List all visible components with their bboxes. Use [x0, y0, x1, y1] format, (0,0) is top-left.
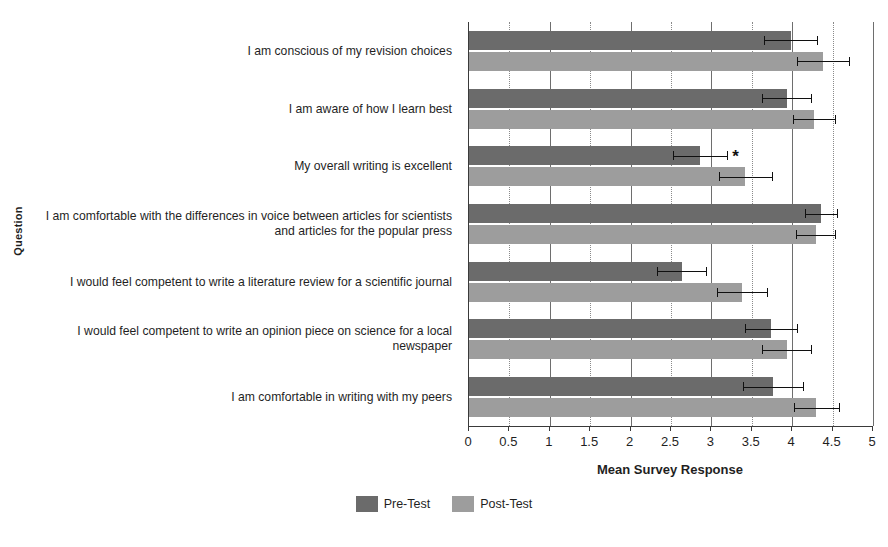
- category-label: I would feel competent to write an opini…: [36, 324, 452, 354]
- bar-post-test: [469, 167, 745, 186]
- x-tick: [872, 426, 873, 431]
- bar-pre-test: [469, 319, 771, 338]
- error-bar: [793, 119, 835, 120]
- error-bar-cap-upper: [772, 172, 773, 181]
- gridline-3: [711, 22, 712, 426]
- error-bar: [743, 387, 803, 388]
- chart-legend: Pre-TestPost-Test: [0, 496, 888, 512]
- error-bar-cap-upper: [706, 267, 707, 276]
- legend-swatch-icon: [452, 496, 474, 512]
- error-bar-cap-lower: [743, 382, 744, 391]
- gridline-2: [631, 22, 632, 426]
- gridline-2-5: [671, 22, 672, 426]
- bar-pre-test: [469, 204, 821, 223]
- gridline-4: [792, 22, 793, 426]
- bar-post-test: [469, 225, 816, 244]
- category-label: My overall writing is excellent: [36, 159, 452, 174]
- error-bar-cap-lower: [717, 288, 718, 297]
- category-label: I am comfortable with the differences in…: [36, 209, 452, 239]
- error-bar: [764, 40, 817, 41]
- x-tick: [791, 426, 792, 431]
- error-bar-cap-lower: [719, 172, 720, 181]
- y-axis-title: Question: [12, 181, 24, 281]
- error-bar-cap-upper: [835, 230, 836, 239]
- x-tick-label: 1: [529, 434, 569, 449]
- error-bar-cap-lower: [797, 57, 798, 66]
- error-bar: [794, 408, 839, 409]
- legend-label: Pre-Test: [384, 497, 431, 511]
- bar-pre-test: [469, 377, 773, 396]
- x-tick-label: 3.5: [731, 434, 771, 449]
- error-bar: [717, 292, 767, 293]
- error-bar-cap-lower: [657, 267, 658, 276]
- error-bar-cap-upper: [837, 209, 838, 218]
- x-tick: [468, 426, 469, 431]
- x-tick-label: 0: [448, 434, 488, 449]
- error-bar: [762, 98, 810, 99]
- x-tick: [589, 426, 590, 431]
- gridline-1-5: [590, 22, 591, 426]
- x-tick-label: 0.5: [488, 434, 528, 449]
- x-tick: [508, 426, 509, 431]
- error-bar-cap-lower: [794, 403, 795, 412]
- error-bar: [762, 350, 810, 351]
- error-bar-cap-upper: [797, 324, 798, 333]
- x-tick-label: 2.5: [650, 434, 690, 449]
- error-bar-cap-upper: [811, 345, 812, 354]
- gridline-5: [873, 22, 874, 426]
- error-bar-cap-lower: [793, 115, 794, 124]
- error-bar: [673, 156, 726, 157]
- legend-entry[interactable]: Post-Test: [452, 496, 532, 512]
- category-label: I am aware of how I learn best: [36, 101, 452, 116]
- gridline-1: [550, 22, 551, 426]
- x-tick: [670, 426, 671, 431]
- category-label: I am comfortable in writing with my peer…: [36, 390, 452, 405]
- x-tick-label: 5: [852, 434, 888, 449]
- bar-pre-test: [469, 146, 700, 165]
- x-tick: [630, 426, 631, 431]
- bar-post-test: [469, 52, 823, 71]
- x-tick: [549, 426, 550, 431]
- error-bar: [805, 214, 837, 215]
- gridline-4-5: [833, 22, 834, 426]
- error-bar-cap-upper: [817, 36, 818, 45]
- legend-label: Post-Test: [480, 497, 532, 511]
- error-bar: [719, 177, 772, 178]
- plot-area: *: [468, 22, 873, 426]
- legend-swatch-icon: [356, 496, 378, 512]
- x-tick-label: 4: [771, 434, 811, 449]
- error-bar-cap-lower: [745, 324, 746, 333]
- error-bar-cap-upper: [803, 382, 804, 391]
- error-bar-cap-upper: [811, 94, 812, 103]
- error-bar-cap-lower: [762, 94, 763, 103]
- error-bar-cap-upper: [839, 403, 840, 412]
- error-bar-cap-lower: [796, 230, 797, 239]
- x-tick-label: 1.5: [569, 434, 609, 449]
- error-bar-cap-upper: [849, 57, 850, 66]
- error-bar: [657, 271, 705, 272]
- category-label: I would feel competent to write a litera…: [36, 274, 452, 289]
- error-bar: [797, 61, 849, 62]
- x-tick-label: 3: [690, 434, 730, 449]
- x-tick: [710, 426, 711, 431]
- error-bar-cap-upper: [835, 115, 836, 124]
- error-bar-cap-upper: [767, 288, 768, 297]
- gridline-3-5: [752, 22, 753, 426]
- error-bar: [745, 329, 797, 330]
- bar-pre-test: [469, 31, 791, 50]
- category-label-column: I am conscious of my revision choicesI a…: [36, 22, 460, 426]
- x-tick-label: 4.5: [812, 434, 852, 449]
- legend-entry[interactable]: Pre-Test: [356, 496, 431, 512]
- bar-pre-test: [469, 89, 787, 108]
- bar-post-test: [469, 110, 814, 129]
- x-axis-title: Mean Survey Response: [468, 462, 872, 477]
- bar-pre-test: [469, 262, 682, 281]
- bar-post-test: [469, 283, 742, 302]
- bar-post-test: [469, 398, 816, 417]
- error-bar-cap-lower: [762, 345, 763, 354]
- plot-inner: *: [469, 22, 873, 426]
- x-tick: [751, 426, 752, 431]
- error-bar-cap-lower: [805, 209, 806, 218]
- survey-bar-chart: Question I am conscious of my revision c…: [0, 0, 888, 547]
- x-tick-label: 2: [610, 434, 650, 449]
